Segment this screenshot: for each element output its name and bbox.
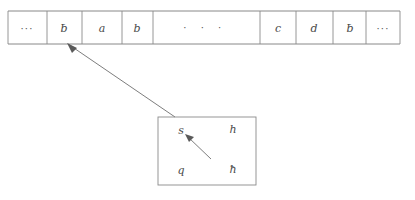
state-detail-box-group: s h q ħ: [158, 117, 256, 185]
state-pointer-arrowhead: [185, 134, 194, 142]
tape-diagram-svg: ··· ƀ a b · · · c d ƀ ··· s h q ħ: [0, 0, 415, 200]
tape-cell-c: c: [275, 22, 281, 35]
tape-cell-blank-left: ƀ: [60, 22, 67, 35]
state-pointer-arrow-line: [188, 137, 211, 159]
state-label-h: h: [229, 123, 236, 136]
tape-group: ··· ƀ a b · · · c d ƀ ···: [8, 11, 400, 44]
state-label-q: q: [177, 164, 184, 177]
state-detail-box: [158, 117, 256, 185]
figure-canvas: ··· ƀ a b · · · c d ƀ ··· s h q ħ: [0, 0, 415, 200]
state-label-hbar: ħ: [229, 163, 236, 176]
tape-cell-d: d: [310, 22, 317, 35]
callout-leader-group: [67, 43, 175, 117]
callout-leader-line: [68, 44, 175, 117]
tape-cell-a: a: [99, 22, 106, 35]
state-label-s: s: [178, 124, 184, 137]
tape-cell-blank-right: ƀ: [346, 22, 353, 35]
tape-cell-right-ellipsis: ···: [377, 23, 390, 34]
tape-cell-middle-ellipsis: · · ·: [183, 22, 226, 33]
callout-leader-arrowhead: [67, 43, 77, 53]
tape-cell-b: b: [133, 22, 140, 35]
tape-cell-left-ellipsis: ···: [21, 23, 34, 34]
